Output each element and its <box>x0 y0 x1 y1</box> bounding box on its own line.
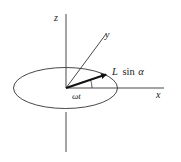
vector-arrow <box>66 75 106 89</box>
x-axis-label: x <box>155 89 161 100</box>
y-axis <box>66 34 106 88</box>
vector-label-alpha: α <box>138 66 144 77</box>
angle-arc <box>91 80 93 89</box>
vector-label: L sin α <box>111 66 144 77</box>
y-axis-label: y <box>104 29 110 40</box>
vector-label-L: L <box>111 66 118 77</box>
vector-label-sin: sin <box>122 66 135 77</box>
angle-label: ωt <box>72 91 81 101</box>
precession-diagram: z y x ωt L sin α <box>0 0 181 162</box>
z-axis-label: z <box>53 12 58 23</box>
